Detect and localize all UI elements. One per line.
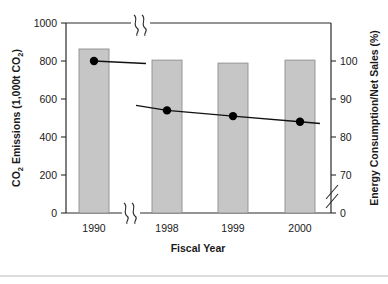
y-left-tick-label-400: 400 — [39, 131, 57, 143]
data-point-1998 — [163, 106, 171, 114]
y-right-tick-label-100: 100 — [340, 55, 358, 67]
svg-text:CO2 Emissions (1,000t CO2): CO2 Emissions (1,000t CO2) — [10, 49, 25, 187]
x-tick-label-1998: 1998 — [155, 222, 179, 234]
y-axis-right-break-icon — [326, 185, 338, 208]
bar-1990 — [79, 49, 109, 213]
y-left-title-part3: ) — [10, 49, 22, 53]
y-right-tick-label-0: 0 — [340, 207, 346, 219]
y-axis-right-title: Energy Consumption/Net Sales (%) — [368, 30, 380, 206]
top-axis-break-icon — [134, 15, 146, 36]
y-left-title-part2: Emissions (1,000t CO — [10, 57, 22, 167]
x-tick-label-1999: 1999 — [221, 222, 245, 234]
y-left-tick-label-0: 0 — [51, 207, 57, 219]
y-left-tick-label-800: 800 — [39, 55, 57, 67]
bar-2000 — [285, 60, 315, 213]
y-left-title-part1: CO — [10, 171, 22, 187]
y-left-tick-label-600: 600 — [39, 93, 57, 105]
y-right-tick-label-90: 90 — [340, 93, 352, 105]
bar-1999 — [218, 63, 248, 213]
y-right-title-text: Energy Consumption/Net Sales (%) — [368, 30, 380, 206]
bar-1998 — [152, 60, 182, 213]
y-axis-left-ticks — [61, 23, 66, 213]
y-left-tick-label-200: 200 — [39, 169, 57, 181]
x-axis-break-icon — [124, 203, 136, 224]
data-point-1999 — [229, 112, 237, 120]
x-axis-title: Fiscal Year — [171, 242, 226, 254]
y-left-tick-label-1000: 1000 — [34, 17, 58, 29]
y-right-tick-label-80: 80 — [340, 131, 352, 143]
y-right-tick-label-70: 70 — [340, 169, 352, 181]
data-point-2000 — [296, 118, 304, 126]
y-axis-left-title: CO2 Emissions (1,000t CO2) — [10, 49, 25, 187]
x-tick-label-1990: 1990 — [82, 222, 106, 234]
chart-canvas: 1000 800 600 400 200 0 100 90 80 70 0 — [0, 0, 388, 284]
data-point-1990 — [90, 57, 98, 65]
x-tick-label-2000: 2000 — [288, 222, 312, 234]
bar-series — [79, 49, 315, 213]
chart-figure: 1000 800 600 400 200 0 100 90 80 70 0 — [0, 0, 388, 284]
